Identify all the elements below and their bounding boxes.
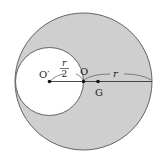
point-o <box>82 80 86 84</box>
label-half-r-denominator: 2 <box>62 69 68 79</box>
label-o: O <box>80 66 88 77</box>
label-o-prime: O′ <box>39 69 50 80</box>
geometry-diagram: O′ O G r 2 r <box>0 0 162 161</box>
point-g <box>96 80 100 84</box>
label-half-r-numerator: r <box>62 58 67 68</box>
point-o-prime <box>48 80 52 84</box>
label-g: G <box>95 87 103 98</box>
